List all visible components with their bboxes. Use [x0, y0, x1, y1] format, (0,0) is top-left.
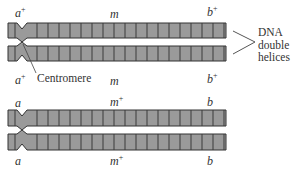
allele-label: b+: [207, 73, 218, 85]
label-line: double: [258, 39, 290, 52]
chromosome-diagram: a+ m b+ a+ m b+ Centromere DNA double he…: [0, 0, 295, 170]
centromere-label: Centromere: [37, 72, 91, 85]
chromosome-1: [8, 23, 226, 73]
dna-bracket: [233, 31, 255, 54]
chromatid-2-top: [8, 110, 226, 130]
allele-label: m+: [110, 155, 123, 167]
allele-label: b: [207, 155, 213, 167]
label-line: DNA: [258, 26, 290, 39]
label-line: helices: [258, 51, 290, 64]
allele-label: a: [15, 97, 21, 109]
chromatid-drawing: [0, 0, 295, 170]
allele-label: b: [207, 96, 213, 108]
dna-double-helices-label: DNA double helices: [258, 26, 290, 64]
chromatid-1-bottom: [8, 42, 226, 61]
allele-label: m: [110, 8, 119, 20]
allele-label: m+: [110, 96, 123, 108]
chromatid-1-top: [8, 23, 226, 42]
allele-label: a+: [15, 74, 26, 86]
allele-label: b+: [207, 6, 218, 18]
allele-label: m: [110, 75, 119, 87]
chromosome-2: [8, 110, 226, 150]
allele-label: a: [15, 155, 21, 167]
chromatid-2-bottom: [8, 130, 226, 150]
allele-label: a+: [15, 7, 26, 19]
